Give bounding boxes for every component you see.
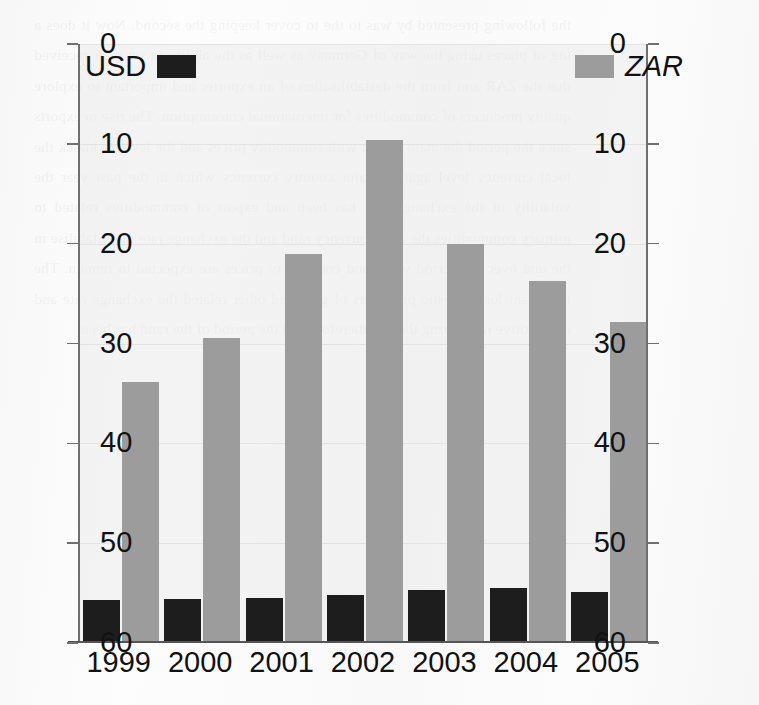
bar-zar-2001 bbox=[285, 254, 322, 643]
gridline bbox=[78, 144, 648, 145]
legend-label-usd: USD bbox=[85, 52, 146, 81]
legend-item-usd: USD bbox=[85, 52, 196, 81]
gridline bbox=[78, 244, 648, 245]
y-axis-tick-right bbox=[648, 243, 659, 245]
y-axis-left-tick-label: 50 bbox=[594, 528, 626, 557]
x-axis-tick-label-2004: 2004 bbox=[485, 648, 566, 677]
y-axis-tick-right bbox=[648, 343, 659, 345]
y-axis-left-tick-label: 20 bbox=[594, 229, 626, 258]
y-axis-left-tick-label: 40 bbox=[594, 428, 626, 457]
x-axis-tick-label-1999: 1999 bbox=[78, 648, 159, 677]
chart-figure: the following presented by was to the to… bbox=[0, 0, 759, 705]
y-axis-left-tick-label: 30 bbox=[594, 329, 626, 358]
y-axis-right-tick-label: 20 bbox=[100, 229, 132, 258]
bar-usd-2004 bbox=[490, 588, 527, 643]
legend-swatch-usd bbox=[157, 55, 196, 78]
bar-usd-2003 bbox=[408, 590, 445, 643]
bar-usd-2000 bbox=[164, 599, 201, 643]
bar-zar-2004 bbox=[529, 281, 566, 643]
bar-zar-2000 bbox=[203, 338, 240, 643]
y-axis-tick-right bbox=[648, 43, 659, 45]
y-axis-tick-left bbox=[67, 542, 78, 544]
gridline bbox=[78, 44, 648, 45]
bar-zar-2003 bbox=[447, 244, 484, 643]
y-axis-right-tick-label: 50 bbox=[100, 528, 132, 557]
y-axis-tick-right bbox=[648, 443, 659, 445]
x-axis-tick-label-2005: 2005 bbox=[567, 648, 648, 677]
legend-label-zar: ZAR bbox=[625, 52, 683, 81]
x-axis-tick-label-2003: 2003 bbox=[404, 648, 485, 677]
y-axis-left-tick-label: 10 bbox=[594, 129, 626, 158]
y-axis-tick-right bbox=[648, 143, 659, 145]
x-axis-tick-label-2001: 2001 bbox=[241, 648, 322, 677]
bar-usd-2001 bbox=[246, 598, 283, 643]
y-axis-left-line bbox=[78, 44, 80, 643]
bar-zar-2002 bbox=[366, 140, 403, 643]
plot-area: 6050403020100 6050403020100 199920002001… bbox=[78, 44, 648, 643]
y-axis-tick-left bbox=[67, 243, 78, 245]
bar-zar-2005 bbox=[610, 322, 647, 643]
x-axis-tick-label-2000: 2000 bbox=[159, 648, 240, 677]
y-axis-tick-right bbox=[648, 542, 659, 544]
y-axis-right-tick-label: 30 bbox=[100, 329, 132, 358]
legend-item-zar: ZAR bbox=[575, 52, 683, 81]
bar-usd-2002 bbox=[327, 595, 364, 643]
legend-swatch-zar bbox=[575, 55, 614, 78]
y-axis-tick-left bbox=[67, 143, 78, 145]
y-axis-tick-right bbox=[648, 642, 659, 644]
bar-zar-1999 bbox=[122, 382, 159, 643]
x-axis-line bbox=[68, 641, 658, 643]
y-axis-tick-left bbox=[67, 443, 78, 445]
y-axis-right-tick-label: 10 bbox=[100, 129, 132, 158]
y-axis-tick-left bbox=[67, 343, 78, 345]
y-axis-tick-left bbox=[67, 43, 78, 45]
x-axis-tick-label-2002: 2002 bbox=[322, 648, 403, 677]
y-axis-right-tick-label: 40 bbox=[100, 428, 132, 457]
y-axis-tick-left bbox=[67, 642, 78, 644]
